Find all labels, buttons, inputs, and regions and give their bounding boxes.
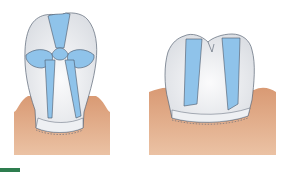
accent-bar	[0, 168, 20, 172]
posterior-tooth	[149, 34, 276, 155]
anterior-tooth	[14, 13, 110, 155]
crown-right	[165, 34, 254, 122]
dental-figure	[0, 0, 290, 172]
